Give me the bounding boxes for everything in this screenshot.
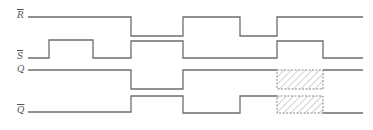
label-q-text: Q bbox=[17, 64, 24, 74]
undefined-region-q bbox=[277, 70, 323, 89]
label-s-bar-text: S bbox=[17, 51, 23, 61]
timing-diagram bbox=[0, 0, 373, 130]
label-r-bar-text: R bbox=[17, 10, 24, 20]
label-s-bar: S bbox=[17, 52, 23, 61]
label-q: Q bbox=[17, 65, 24, 74]
waveform-r-bar bbox=[28, 17, 363, 36]
label-q-bar: Q bbox=[17, 106, 24, 115]
label-q-bar-text: Q bbox=[17, 105, 24, 115]
waveform-s-bar bbox=[28, 40, 363, 58]
label-r-bar: R bbox=[17, 11, 24, 20]
undefined-region-q-bar bbox=[277, 96, 323, 113]
